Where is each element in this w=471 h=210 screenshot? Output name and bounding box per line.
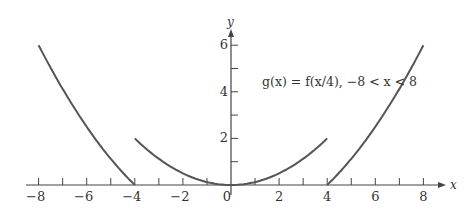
x-tick-label: 2	[275, 189, 283, 204]
x-axis-arrow	[438, 182, 446, 188]
axes: xy−8−6−4−224680246	[26, 15, 457, 204]
x-tick-label: 0	[223, 189, 231, 204]
y-axis-arrow	[228, 29, 234, 37]
x-tick-label: −8	[26, 189, 45, 204]
y-tick-label: 6	[220, 37, 228, 52]
chart: xy−8−6−4−224680246 g(x) = f(x/4), −8 < x…	[0, 0, 471, 210]
x-tick-label: −6	[74, 189, 93, 204]
chart-svg: xy−8−6−4−224680246 g(x) = f(x/4), −8 < x…	[0, 0, 471, 210]
y-axis-label: y	[226, 15, 234, 29]
y-tick-label: 4	[220, 84, 228, 99]
x-axis-label: x	[450, 178, 457, 192]
x-tick-label: 6	[371, 189, 379, 204]
x-tick-label: −2	[170, 189, 189, 204]
x-tick-label: −4	[122, 189, 141, 204]
x-tick-label: 4	[323, 189, 331, 204]
function-annotation: g(x) = f(x/4), −8 < x < 8	[262, 74, 417, 89]
curve-right-branch	[327, 45, 423, 185]
y-tick-label: 2	[220, 130, 228, 145]
x-tick-label: 8	[419, 189, 427, 204]
curve-left-branch	[39, 45, 135, 185]
